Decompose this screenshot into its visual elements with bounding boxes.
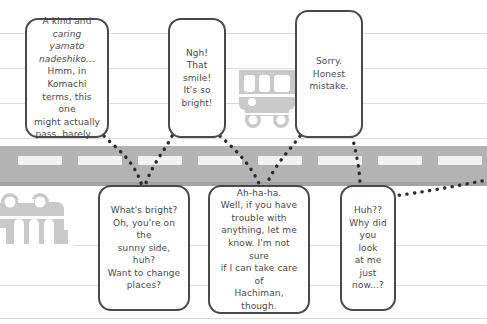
lane-marking — [198, 156, 242, 165]
balloon-why-did-you-look: Huh??Why didyou lookat mejustnow...? — [340, 185, 396, 311]
balloon-honest-mistake: Sorry.Honestmistake. — [295, 10, 363, 138]
lane-marking — [378, 156, 422, 165]
background-line — [0, 318, 487, 319]
balloon-ah-ha-ha: Ah-ha-ha.Well, if you havetrouble withan… — [208, 185, 310, 314]
balloon-that-smile: Ngh!That smile!It's sobright! — [168, 18, 226, 138]
balloon-text: Ngh!That smile!It's sobright! — [177, 47, 217, 110]
lane-marking — [78, 156, 122, 165]
manga-panel: A kind andcaring yamatonadeshiko...Hmm, … — [0, 0, 487, 324]
balloon-text: Ah-ha-ha.Well, if you havetrouble withan… — [217, 187, 301, 313]
bus-icon-upper — [237, 68, 297, 130]
lane-marking — [138, 156, 182, 165]
balloon-text: Sorry.Honestmistake. — [309, 55, 348, 93]
balloon-text: What's bright?Oh, you're on thesunny sid… — [107, 204, 181, 292]
lane-marking — [258, 156, 302, 165]
balloon-text: Huh??Why didyou lookat mejustnow...? — [349, 204, 387, 292]
balloon-whats-bright: What's bright?Oh, you're on thesunny sid… — [98, 185, 190, 311]
lane-marking — [318, 156, 362, 165]
lane-marking — [438, 156, 482, 165]
balloon-kind-and-caring: A kind andcaring yamatonadeshiko...Hmm, … — [25, 18, 109, 138]
bus-icon-lower-left — [0, 192, 74, 254]
balloon-text: A kind andcaring yamatonadeshiko...Hmm, … — [34, 15, 100, 141]
road-surface — [0, 146, 487, 186]
lane-marking — [18, 156, 62, 165]
